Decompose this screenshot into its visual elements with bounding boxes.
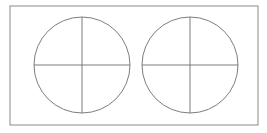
outer-frame [10, 6, 258, 125]
figure-container [0, 0, 267, 133]
diagram-canvas [0, 0, 267, 133]
